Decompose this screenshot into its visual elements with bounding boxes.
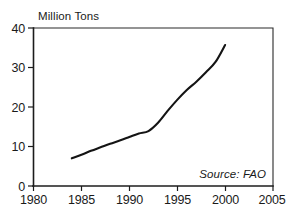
x-tick-label-2000: 2000 xyxy=(212,193,239,207)
y-tick-label-10: 10 xyxy=(11,140,25,154)
chart-container: 0 10 20 30 40 1980 1985 1990 1995 2000 2… xyxy=(0,0,303,217)
y-tick-label-40: 40 xyxy=(11,22,25,36)
y-axis-unit-label: Million Tons xyxy=(38,10,99,22)
line-chart: 0 10 20 30 40 1980 1985 1990 1995 2000 2… xyxy=(0,0,303,217)
plot-frame xyxy=(33,28,273,186)
source-note: Source: FAO xyxy=(199,168,266,180)
x-tick-label-1995: 1995 xyxy=(164,193,191,207)
data-series-line xyxy=(72,45,225,158)
x-tick-label-1990: 1990 xyxy=(116,193,143,207)
x-tick-label-1980: 1980 xyxy=(20,193,47,207)
y-tick-label-30: 30 xyxy=(11,61,25,75)
y-tick-label-0: 0 xyxy=(18,180,25,194)
y-tick-label-20: 20 xyxy=(11,101,25,115)
x-tick-label-1985: 1985 xyxy=(68,193,95,207)
x-tick-label-2005: 2005 xyxy=(258,193,285,207)
